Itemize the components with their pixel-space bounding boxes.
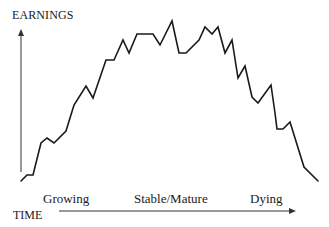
stage-label-stable-mature: Stable/Mature — [134, 192, 208, 205]
x-axis-title: TIME — [13, 209, 42, 221]
x-axis-arrow-icon — [289, 208, 296, 214]
stage-label-growing: Growing — [43, 192, 89, 205]
y-axis — [18, 29, 24, 172]
x-axis — [59, 208, 296, 214]
earnings-line — [21, 21, 318, 181]
stage-label-dying: Dying — [250, 192, 283, 205]
y-axis-arrow-icon — [18, 29, 24, 36]
